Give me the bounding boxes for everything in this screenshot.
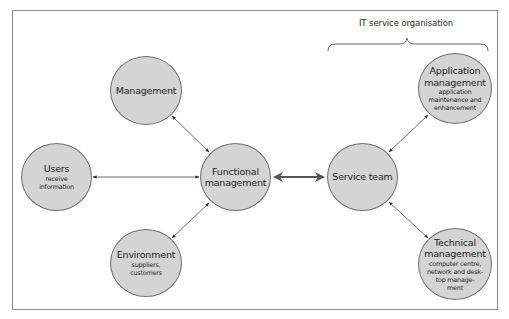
- node-technical-title-2: management: [424, 248, 486, 260]
- node-technical-management: Technical management computer centre, ne…: [418, 228, 492, 300]
- node-environment-title: Environment: [117, 249, 175, 261]
- node-environment-subtitle-2: customers: [130, 269, 162, 277]
- node-users: Users receive information: [21, 143, 92, 211]
- edge-service-technical: [389, 202, 428, 238]
- node-application-subtitle-3: enhancement: [434, 104, 476, 112]
- edge-functional-service-team: [273, 172, 325, 182]
- node-functional-title-2: management: [205, 177, 267, 189]
- node-functional-management: Functional management: [200, 143, 271, 211]
- node-management-title: Management: [116, 85, 177, 97]
- node-technical-subtitle-3: top manage-: [436, 276, 475, 284]
- node-management: Management: [110, 56, 182, 125]
- edge-environment-functional: [172, 203, 209, 238]
- node-users-subtitle: receive information: [35, 175, 79, 191]
- node-application-subtitle-2: maintenance and: [429, 96, 482, 104]
- node-technical-subtitle-4: ment: [447, 284, 463, 292]
- node-application-subtitle-1: application: [438, 88, 471, 96]
- group-label-it-service-organisation: IT service organisation: [328, 18, 484, 28]
- node-environment-subtitle-1: suppliers,: [132, 261, 161, 269]
- node-technical-subtitle-2: network and desk-: [427, 268, 483, 276]
- node-environment: Environment suppliers, customers: [110, 229, 182, 297]
- node-functional-title-1: Functional: [212, 166, 259, 178]
- node-service-team: Service team: [327, 143, 398, 211]
- node-application-management: Application management application maint…: [418, 53, 492, 124]
- node-application-title-2: management: [424, 77, 486, 89]
- group-brace: [328, 38, 488, 51]
- diagram-canvas: IT service organisation Management Users…: [0, 0, 509, 319]
- node-application-title-1: Application: [430, 65, 481, 77]
- node-users-title: Users: [44, 163, 70, 175]
- node-technical-subtitle-1: computer centre,: [429, 260, 481, 268]
- edge-management-functional: [172, 116, 209, 152]
- node-service-team-title: Service team: [332, 171, 392, 183]
- node-technical-title-1: Technical: [434, 237, 476, 249]
- edge-service-application: [389, 115, 428, 152]
